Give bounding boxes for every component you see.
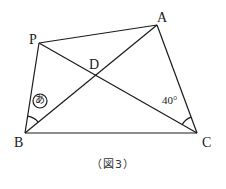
angle-arc-b bbox=[28, 116, 39, 122]
segment-ac bbox=[157, 25, 197, 133]
point-label-c: C bbox=[202, 136, 211, 150]
point-label-p: P bbox=[29, 33, 37, 47]
point-label-b: B bbox=[14, 136, 23, 150]
segment-ab bbox=[25, 25, 157, 133]
angle-label-c: 40° bbox=[162, 95, 177, 106]
segment-pb bbox=[25, 43, 39, 133]
point-label-a: A bbox=[157, 11, 167, 25]
angle-label-b: あ bbox=[35, 95, 45, 105]
figure-caption: （図3） bbox=[0, 155, 226, 171]
segment-pa bbox=[39, 25, 157, 43]
angle-arc-c bbox=[182, 117, 191, 125]
point-label-d: D bbox=[89, 58, 99, 72]
